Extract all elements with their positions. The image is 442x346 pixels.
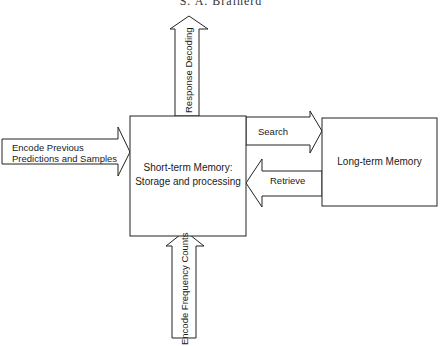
encode-previous-label: Encode Previous Predictions and Samples [12,142,117,164]
retrieve-label: Retrieve [270,175,305,186]
encode-previous-line2: Predictions and Samples [12,153,117,164]
encode-previous-line1: Encode Previous [12,142,117,153]
stm-label-line2: Storage and processing [130,175,246,189]
response-decoding-label: Response Decoding [183,33,195,113]
stm-label-line1: Short-term Memory: [130,161,246,175]
short-term-memory-label: Short-term Memory: Storage and processin… [130,161,246,189]
search-label: Search [258,126,288,137]
long-term-memory-label: Long-term Memory [322,155,437,169]
encode-frequency-label: Encode Frequency Counts [179,233,191,345]
